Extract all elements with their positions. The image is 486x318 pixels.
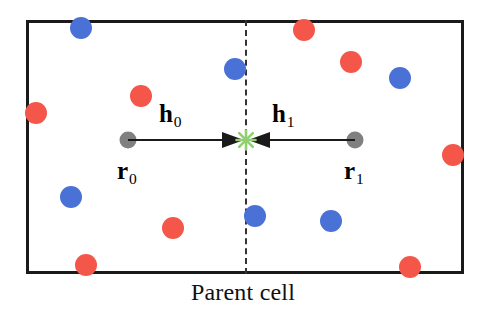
particle-dot-red — [25, 102, 47, 124]
particle-dot-red — [75, 254, 97, 276]
particle-dot-red — [340, 51, 362, 73]
vector-label-h0: h0 — [159, 100, 182, 128]
particle-dot-red — [293, 19, 315, 41]
vector-label-h1: h1 — [272, 100, 295, 128]
position-label-r1-base: r — [344, 157, 356, 184]
vector-label-h1-base: h — [272, 100, 286, 127]
particle-dot-blue — [70, 17, 92, 39]
particle-dot-red — [442, 144, 464, 166]
position-label-r0: r0 — [117, 157, 137, 185]
particle-dot-blue — [60, 186, 82, 208]
position-label-r1: r1 — [344, 157, 364, 185]
particle-dot-blue — [224, 58, 246, 80]
figure-canvas: h0 h1 r0 r1 Parent cell — [0, 0, 486, 318]
figure-caption: Parent cell — [0, 279, 486, 306]
particle-dot-blue — [244, 205, 266, 227]
position-label-r0-base: r — [117, 157, 129, 184]
particle-dot-red — [130, 85, 152, 107]
position-label-r1-subscript: 1 — [356, 170, 364, 187]
vector-label-h0-base: h — [159, 100, 173, 127]
vector-label-h1-subscript: 1 — [287, 113, 295, 130]
particle-dot-blue — [320, 210, 342, 232]
particle-dot-red — [399, 256, 421, 278]
position-label-r0-subscript: 0 — [129, 170, 137, 187]
image-point-star-icon — [235, 129, 257, 151]
vector-label-h0-subscript: 0 — [174, 113, 182, 130]
particle-dot-red — [162, 217, 184, 239]
particle-dot-blue — [389, 67, 411, 89]
